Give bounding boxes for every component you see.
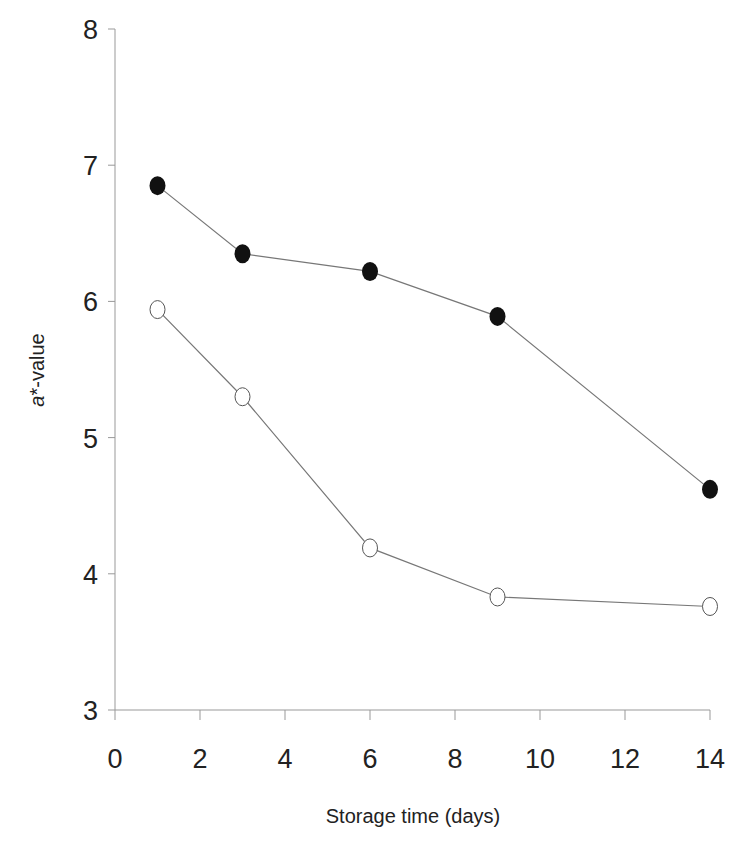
x-tick-label: 6 [362,744,377,774]
y-tick-label: 6 [83,287,98,317]
line-chart: 34567802468101214 Storage time (days) a*… [0,0,745,846]
x-tick-label: 0 [107,744,122,774]
y-axis-label: a*-value [26,333,48,406]
series-line-0 [158,186,711,490]
open-marker [363,539,378,557]
open-marker [150,301,165,319]
open-marker [235,388,250,406]
y-tick-label: 8 [83,15,98,45]
x-tick-label: 10 [525,744,555,774]
filled-marker [235,244,251,263]
axes: 34567802468101214 [83,15,725,774]
y-tick-label: 3 [83,696,98,726]
x-tick-label: 14 [695,744,725,774]
open-marker [703,597,718,615]
filled-marker [702,480,718,499]
series-group [150,176,719,615]
y-tick-label: 7 [83,151,98,181]
x-tick-label: 12 [610,744,640,774]
y-tick-label: 5 [83,424,98,454]
x-tick-label: 2 [192,744,207,774]
filled-marker [490,307,506,326]
x-tick-label: 8 [447,744,462,774]
open-marker [490,588,505,606]
series-line-1 [158,310,711,607]
x-axis-label: Storage time (days) [326,805,501,827]
x-tick-label: 4 [277,744,292,774]
filled-marker [150,176,166,195]
filled-marker [362,262,378,281]
y-tick-label: 4 [83,560,98,590]
